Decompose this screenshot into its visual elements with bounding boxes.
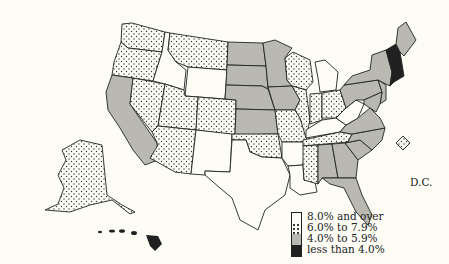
state-NY — [344, 50, 392, 86]
state-AZ — [150, 126, 196, 174]
state-KS — [235, 109, 278, 135]
state-AK — [45, 140, 135, 214]
state-ND — [227, 42, 266, 66]
state-DC — [396, 136, 410, 150]
state-AR — [282, 142, 305, 166]
state-MS — [303, 145, 318, 184]
state-CO — [196, 97, 236, 135]
state-ME — [396, 22, 416, 56]
us-choropleth-map — [0, 0, 449, 264]
state-IN — [310, 93, 322, 124]
legend-swatch-dotted — [291, 223, 302, 234]
legend-swatch-gray — [291, 234, 302, 245]
dc-label: D.C. — [410, 176, 432, 188]
legend-swatch-black — [291, 245, 302, 257]
legend-label-4: less than 4.0% — [307, 244, 385, 255]
state-NM — [191, 130, 232, 175]
state-HI — [98, 229, 162, 251]
state-MI — [315, 60, 338, 92]
state-WY — [185, 67, 227, 99]
